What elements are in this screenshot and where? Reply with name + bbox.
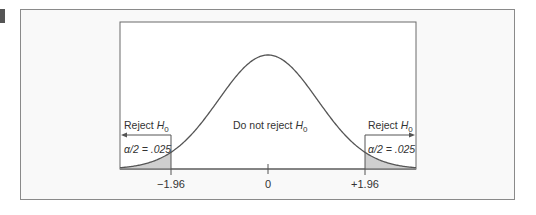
tick-label-zero: 0 <box>265 178 271 190</box>
normal-distribution-chart: Reject H0 Reject H0 Do not reject H0 α/2… <box>0 0 536 215</box>
alpha-right-label: α/2 = .025 <box>368 143 415 155</box>
tick-label-neg-1-96: −1.96 <box>157 178 185 190</box>
tick-label-pos-1-96: +1.96 <box>351 178 379 190</box>
alpha-left-label: α/2 = .025 <box>124 143 171 155</box>
